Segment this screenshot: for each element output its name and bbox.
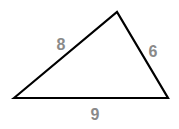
- triangle-shape: [14, 12, 168, 98]
- triangle-diagram: [0, 0, 179, 129]
- side-label-left: 8: [57, 37, 66, 53]
- side-label-bottom: 9: [91, 107, 100, 123]
- side-label-right: 6: [149, 44, 158, 60]
